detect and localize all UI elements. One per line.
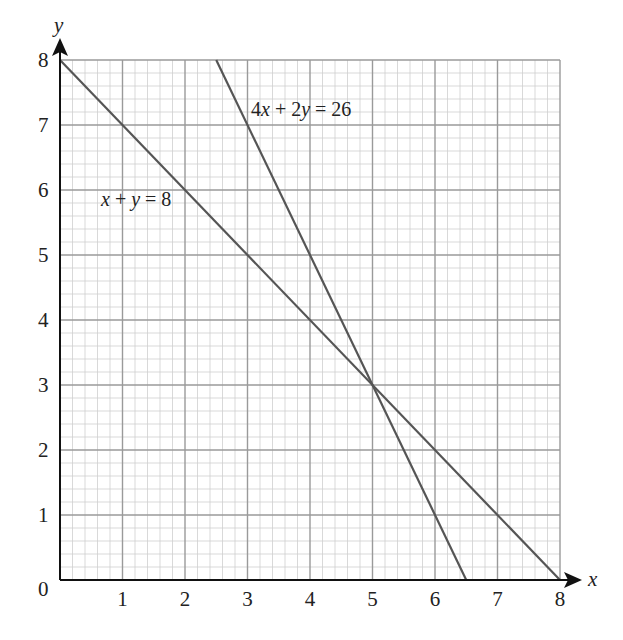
tick-labels: 1234567812345678	[38, 48, 565, 611]
y-axis-label: y	[52, 13, 64, 37]
y-tick-label: 4	[38, 308, 49, 332]
y-tick-label: 3	[38, 373, 49, 397]
x-tick-label: 1	[117, 587, 128, 611]
x-tick-label: 8	[555, 587, 566, 611]
y-tick-label: 2	[38, 438, 49, 462]
x-tick-label: 6	[430, 587, 441, 611]
origin-label: 0	[38, 577, 49, 601]
y-tick-label: 5	[38, 243, 49, 267]
y-tick-label: 8	[38, 48, 49, 72]
y-tick-label: 1	[38, 503, 49, 527]
x-tick-label: 2	[180, 587, 191, 611]
y-tick-label: 6	[38, 178, 49, 202]
label-line-x-plus-y: x + y = 8	[100, 188, 171, 211]
graph: 1234567812345678 x y 0 x + y = 8 4x + 2y…	[0, 0, 623, 640]
label-line-4x-plus-2y: 4x + 2y = 26	[251, 98, 351, 121]
x-axis-label: x	[587, 567, 598, 591]
y-tick-label: 7	[38, 113, 49, 137]
axes	[52, 38, 582, 588]
x-tick-label: 7	[492, 587, 503, 611]
x-tick-label: 5	[367, 587, 378, 611]
x-tick-label: 4	[305, 587, 316, 611]
x-tick-label: 3	[242, 587, 253, 611]
